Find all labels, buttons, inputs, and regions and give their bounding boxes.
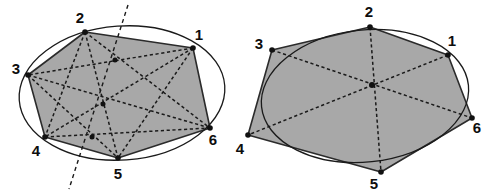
vertex-label-3: 3 bbox=[255, 35, 263, 52]
vertex-dot-1 bbox=[190, 45, 196, 51]
vertex-dot-6 bbox=[207, 125, 213, 131]
vertex-label-5: 5 bbox=[370, 175, 378, 192]
left-panel-group: 123456 bbox=[12, 5, 230, 189]
vertex-dot-4 bbox=[245, 132, 251, 138]
vertex-dot-3 bbox=[269, 47, 275, 53]
intersection-dot-1 bbox=[113, 58, 118, 63]
vertex-label-2: 2 bbox=[76, 9, 84, 26]
vertex-label-2: 2 bbox=[365, 3, 373, 20]
vertex-dot-4 bbox=[42, 134, 48, 140]
intersection-dot-2 bbox=[101, 102, 106, 107]
geometry-figure: 123456 123456 bbox=[0, 0, 496, 195]
intersection-dot-3 bbox=[90, 135, 95, 140]
vertex-label-1: 1 bbox=[195, 26, 203, 43]
vertex-dot-1 bbox=[445, 52, 451, 58]
right-panel-group: 123456 bbox=[236, 3, 481, 192]
vertex-label-4: 4 bbox=[32, 142, 41, 159]
vertex-label-6: 6 bbox=[473, 119, 481, 136]
vertex-dot-5 bbox=[115, 155, 121, 161]
vertex-label-6: 6 bbox=[209, 131, 217, 148]
vertex-label-5: 5 bbox=[114, 165, 122, 182]
vertex-dot-2 bbox=[367, 24, 373, 30]
vertex-label-3: 3 bbox=[12, 60, 20, 77]
right-hexagon bbox=[248, 27, 472, 172]
vertex-dot-3 bbox=[25, 72, 31, 78]
diagram-canvas: 123456 123456 bbox=[0, 0, 496, 195]
left-hexagon bbox=[28, 32, 210, 158]
vertex-label-1: 1 bbox=[448, 32, 456, 49]
brianchon-point-dot bbox=[369, 82, 375, 88]
vertex-label-4: 4 bbox=[236, 140, 245, 157]
vertex-dot-5 bbox=[378, 169, 384, 175]
vertex-dot-2 bbox=[82, 29, 88, 35]
